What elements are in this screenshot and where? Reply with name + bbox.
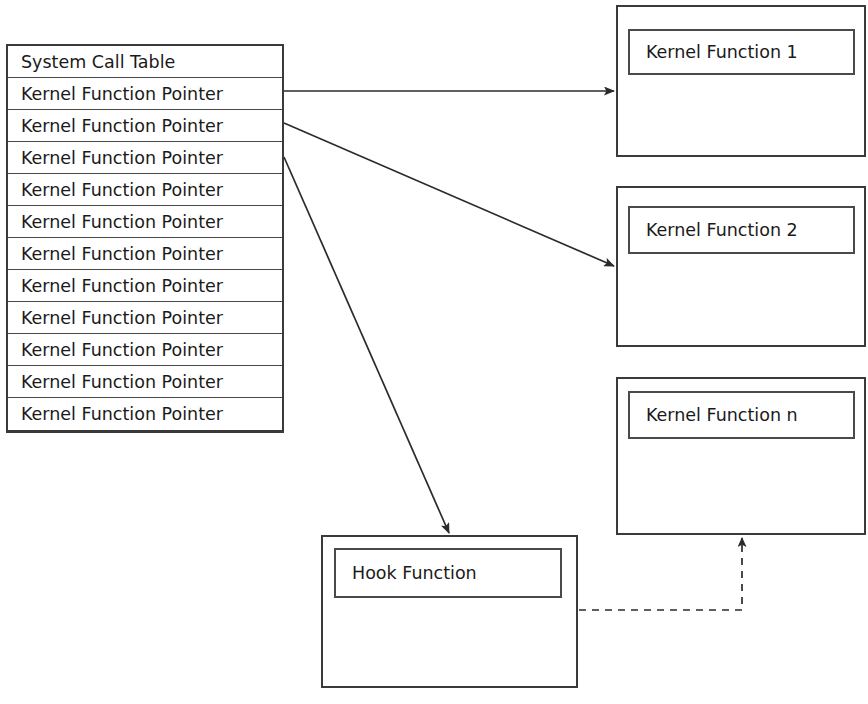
- kernel-function-1-label: Kernel Function 1: [646, 42, 798, 62]
- table-row: Kernel Function Pointer: [8, 174, 282, 206]
- table-row: Kernel Function Pointer: [8, 110, 282, 142]
- edge-pointer-2-to-kernel-function-2: [284, 123, 614, 266]
- kernel-function-n-label: Kernel Function n: [646, 405, 798, 425]
- table-row: Kernel Function Pointer: [8, 302, 282, 334]
- table-row: Kernel Function Pointer: [8, 398, 282, 430]
- system-call-table-header: System Call Table: [8, 46, 282, 78]
- table-row: Kernel Function Pointer: [8, 238, 282, 270]
- system-call-table: System Call Table Kernel Function Pointe…: [6, 44, 284, 433]
- edge-pointer-3-to-hook-function: [284, 157, 449, 533]
- kernel-function-1-container: [616, 5, 866, 157]
- table-row: Kernel Function Pointer: [8, 206, 282, 238]
- table-row: Kernel Function Pointer: [8, 334, 282, 366]
- kernel-function-n-label-box: Kernel Function n: [628, 391, 855, 439]
- hook-function-label: Hook Function: [352, 563, 477, 583]
- table-row: Kernel Function Pointer: [8, 366, 282, 398]
- hook-function-label-box: Hook Function: [334, 548, 562, 598]
- edge-hook-function-to-kernel-function-n: [579, 538, 742, 610]
- kernel-function-1-label-box: Kernel Function 1: [628, 29, 855, 75]
- table-row: Kernel Function Pointer: [8, 78, 282, 110]
- diagram-canvas: System Call Table Kernel Function Pointe…: [0, 0, 868, 704]
- table-row: Kernel Function Pointer: [8, 142, 282, 174]
- kernel-function-2-label-box: Kernel Function 2: [628, 206, 855, 254]
- table-row: Kernel Function Pointer: [8, 270, 282, 302]
- kernel-function-2-label: Kernel Function 2: [646, 220, 798, 240]
